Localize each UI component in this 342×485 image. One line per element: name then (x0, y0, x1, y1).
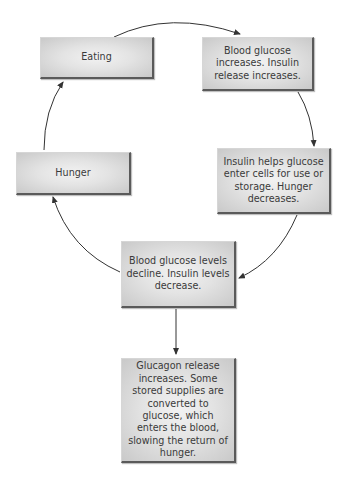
node-blood-glucose-declines-label: Blood glucose levels decline. Insulin le… (126, 255, 230, 292)
node-blood-glucose-increases: Blood glucose increases. Insulin release… (202, 37, 314, 91)
glucose-cycle-diagram: Eating Blood glucose increases. Insulin … (0, 0, 342, 485)
node-eating: Eating (40, 37, 154, 79)
arrow-increase-to-insulin (298, 92, 314, 146)
node-blood-glucose-declines: Blood glucose levels decline. Insulin le… (121, 241, 236, 308)
arrow-eating-to-increase (114, 23, 240, 37)
node-eating-label: Eating (81, 51, 112, 63)
arrow-decline-to-hunger (53, 197, 120, 272)
node-insulin-helps-glucose-label: Insulin helps glucose enter cells for us… (222, 156, 325, 206)
node-glucagon-release-label: Glucagon release increases. Some stored … (126, 360, 230, 459)
node-blood-glucose-increases-label: Blood glucose increases. Insulin release… (207, 45, 308, 82)
node-insulin-helps-glucose: Insulin helps glucose enter cells for us… (217, 148, 331, 214)
node-hunger: Hunger (16, 152, 131, 195)
node-glucagon-release: Glucagon release increases. Some stored … (121, 358, 236, 463)
arrow-hunger-to-eating (44, 82, 63, 150)
node-hunger-label: Hunger (55, 167, 90, 179)
arrow-insulin-to-decline (239, 215, 297, 278)
